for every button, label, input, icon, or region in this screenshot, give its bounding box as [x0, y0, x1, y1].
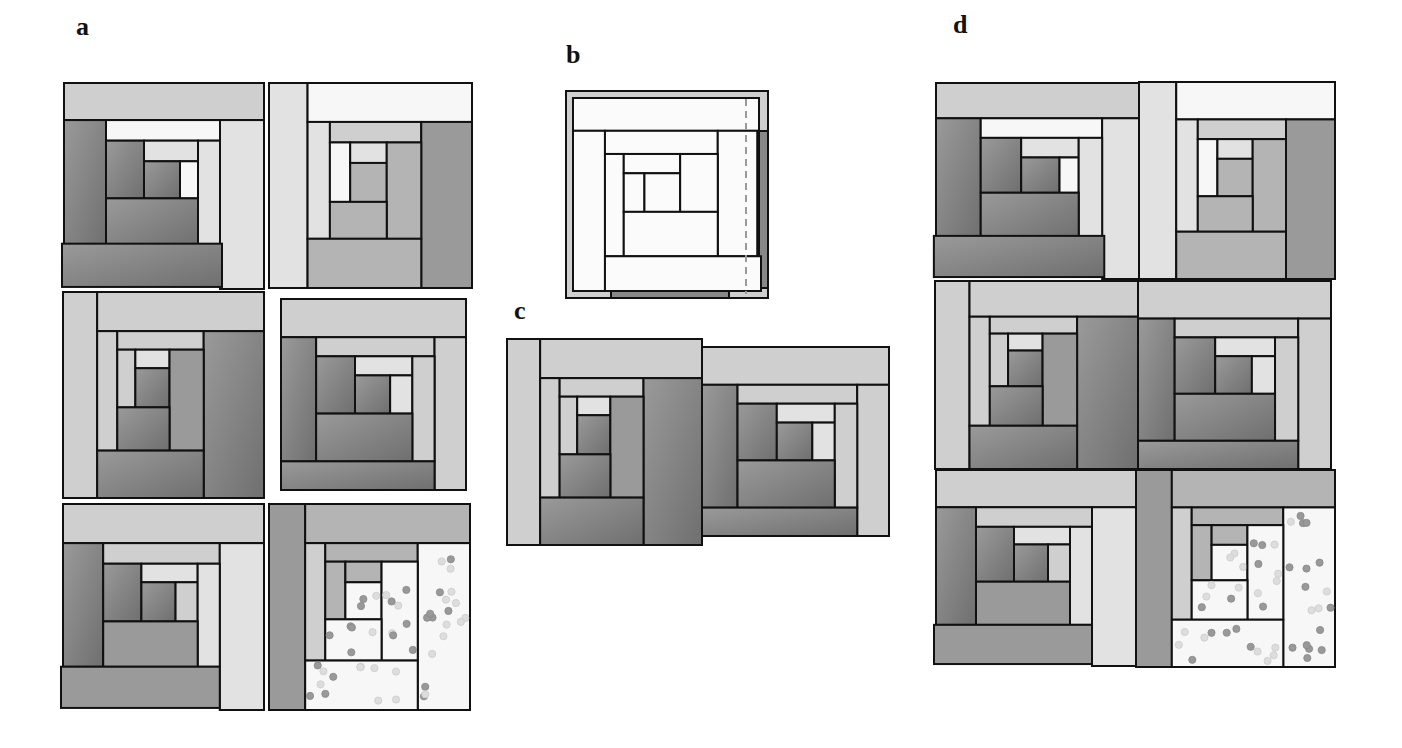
block-outline-strip [624, 212, 718, 256]
quilt-strip [702, 508, 857, 536]
quilt-strip [644, 378, 703, 545]
fabric-dot-pattern [429, 650, 436, 657]
fabric-dot-pattern [1323, 588, 1330, 595]
quilt-strip [560, 378, 644, 397]
quilt-strip [325, 562, 345, 620]
fabric-dot-pattern [1201, 634, 1208, 641]
quilt-strip [135, 368, 169, 407]
quilt-strip [62, 244, 222, 287]
quilt-strip [1252, 356, 1275, 394]
fabric-dot-pattern [1316, 626, 1323, 633]
quilt-strip [1014, 527, 1070, 545]
quilt-strip [316, 414, 412, 462]
quilt-strip [1192, 525, 1212, 580]
fabric-dot-pattern [1259, 603, 1266, 610]
fabric-dot-pattern [1223, 629, 1230, 636]
quilt-strip [330, 122, 421, 143]
fabric-dot-pattern [1203, 593, 1210, 600]
block-outline-strip [605, 256, 761, 291]
quilt-strip [577, 415, 610, 454]
quilt-strip [1176, 82, 1335, 119]
block-a6 [269, 504, 470, 710]
quilt-strip [117, 350, 135, 408]
fabric-dot-pattern [1175, 641, 1182, 648]
quilt-strip [1008, 334, 1043, 351]
quilt-strip [382, 562, 418, 661]
block-a5 [61, 504, 264, 710]
fabric-dot-pattern [357, 602, 364, 609]
quilt-strip [103, 621, 197, 666]
fabric-dot-pattern [1271, 541, 1278, 548]
quilt-strip [990, 334, 1008, 387]
quilt-strip [350, 163, 387, 202]
fabric-dot-pattern [1247, 643, 1254, 650]
quilt-strip [1008, 351, 1043, 387]
quilt-strip [1298, 319, 1331, 469]
quilt-strip [305, 504, 470, 543]
block-outline-strip [644, 173, 680, 212]
quilt-strip [117, 331, 203, 350]
quilt-strip [1138, 441, 1298, 469]
fabric-dot-pattern [326, 632, 333, 639]
fabric-dot-pattern [1227, 554, 1234, 561]
block-d1 [934, 83, 1149, 279]
quilt-strip [269, 504, 305, 710]
fabric-dot-pattern [1289, 644, 1296, 651]
quilt-strip [936, 83, 1149, 118]
quilt-strip [355, 375, 390, 413]
quilt-strip [560, 454, 611, 497]
quilt-strip [1212, 545, 1248, 580]
quilt-strip [981, 193, 1079, 240]
quilt-strip [316, 337, 434, 356]
quilt-strip [1286, 119, 1335, 279]
quilt-strip [180, 161, 198, 198]
fabric-dot-pattern [1254, 590, 1261, 597]
fabric-dot-pattern [448, 588, 455, 595]
quilt-strip [97, 292, 264, 331]
fabric-dot-pattern [445, 607, 452, 614]
quilt-strip [970, 281, 1138, 317]
block-c2 [702, 347, 889, 536]
fabric-dot-pattern [388, 598, 395, 605]
quilt-strip [936, 470, 1136, 507]
block-c1 [507, 339, 702, 545]
fabric-dot-pattern [392, 668, 399, 675]
block-outline-strip [680, 154, 718, 212]
fabric-dot-pattern [1304, 654, 1311, 661]
fabric-dot-pattern [422, 683, 429, 690]
fabric-dot-pattern [330, 673, 337, 680]
fabric-dot-pattern [1275, 570, 1282, 577]
fabric-dot-pattern [436, 589, 443, 596]
quilt-strip [1175, 394, 1275, 441]
quilt-strip [1176, 119, 1198, 231]
fabric-dot-pattern [442, 596, 449, 603]
fabric-dot-pattern [1286, 564, 1293, 571]
quilt-strip [141, 564, 197, 583]
quilt-strip [170, 350, 204, 451]
fabric-dot-pattern [1308, 607, 1315, 614]
fabric-dot-pattern [1327, 604, 1334, 611]
fabric-dot-pattern [348, 649, 355, 656]
panel-a-blocks [61, 83, 472, 710]
block-outline-strip [573, 98, 759, 131]
block-outline-strip [605, 154, 624, 256]
quilt-strip [1192, 507, 1284, 525]
quilt-strip [281, 299, 466, 337]
fabric-dot-pattern [360, 595, 367, 602]
quilt-strip [990, 317, 1077, 334]
fabric-dot-pattern [322, 690, 329, 697]
quilt-strip [64, 83, 264, 120]
block-outline-strip [624, 173, 645, 212]
quilt-strip [981, 118, 1102, 138]
quilt-strip [1198, 139, 1218, 196]
quilt-strip [540, 339, 702, 378]
quilt-strip [330, 142, 350, 201]
quilt-strip [435, 337, 466, 490]
quilt-strip [540, 378, 560, 497]
quilt-strip [540, 498, 643, 545]
quilt-strip [63, 543, 103, 667]
fabric-dot-pattern [422, 691, 429, 698]
fabric-dot-pattern [373, 592, 380, 599]
quilt-strip [141, 582, 175, 621]
quilt-strip [305, 543, 325, 660]
